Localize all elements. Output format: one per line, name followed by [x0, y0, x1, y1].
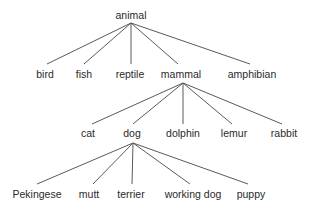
node-lemur: lemur: [221, 128, 247, 139]
node-bird: bird: [36, 69, 54, 80]
edge-dog-terrier: [132, 143, 133, 184]
edge-dog-Pekingese: [37, 143, 133, 184]
edge-dog-mutt: [93, 143, 133, 184]
node-pekingese: Pekingese: [12, 189, 61, 200]
node-rabbit: rabbit: [271, 128, 297, 139]
node-reptile: reptile: [116, 69, 145, 80]
edge-dog-working-dog: [133, 143, 190, 184]
node-working-dog: working dog: [165, 189, 222, 200]
edge-dog-puppy: [133, 143, 248, 184]
node-animal: animal: [116, 10, 147, 21]
node-terrier: terrier: [117, 189, 144, 200]
edge-animal-mammal: [131, 23, 178, 64]
node-amphibian: amphibian: [228, 69, 276, 80]
node-puppy: puppy: [237, 189, 266, 200]
node-mutt: mutt: [79, 189, 99, 200]
node-cat: cat: [81, 128, 95, 139]
node-mammal: mammal: [161, 69, 201, 80]
node-dolphin: dolphin: [166, 128, 200, 139]
node-fish: fish: [76, 69, 92, 80]
node-dog: dog: [123, 128, 141, 139]
edge-mammal-rabbit: [183, 83, 282, 124]
edge-mammal-dog: [133, 83, 183, 124]
edge-animal-bird: [47, 23, 131, 64]
tree-edges: [0, 0, 311, 211]
tree-diagram: animal bird fish reptile mammal amphibia…: [0, 0, 311, 211]
edge-mammal-lemur: [183, 83, 232, 124]
edge-animal-amphibian: [131, 23, 250, 64]
edge-mammal-cat: [92, 83, 183, 124]
edge-animal-fish: [84, 23, 131, 64]
